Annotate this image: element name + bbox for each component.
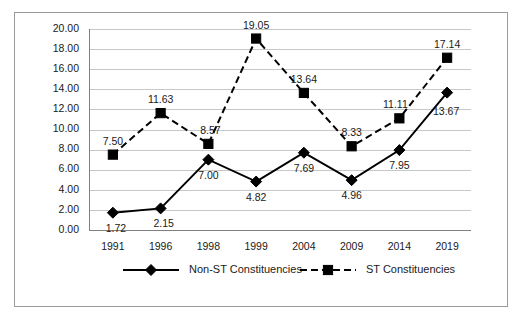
- y-tick-label: 14.00: [53, 82, 79, 94]
- x-tick-label: 2019: [435, 240, 459, 252]
- legend-marker-st: [323, 265, 332, 274]
- data-point-marker: [108, 150, 117, 159]
- y-tick-label: 20.00: [53, 22, 79, 34]
- x-tick-label: 1998: [197, 240, 221, 252]
- plot-area: 0.002.004.006.008.0010.0012.0014.0016.00…: [15, 13, 507, 306]
- x-tick-label: 2014: [388, 240, 412, 252]
- y-tick-label: 6.00: [59, 162, 80, 174]
- x-tick-label: 1999: [244, 240, 268, 252]
- y-tick-label: 2.00: [59, 203, 80, 215]
- data-point-marker: [252, 34, 261, 43]
- data-point-label: 8.33: [341, 126, 362, 138]
- data-point-label: 8.57: [200, 124, 221, 136]
- data-point-label: 11.63: [148, 93, 174, 105]
- data-point-marker: [299, 88, 308, 97]
- y-tick-label: 18.00: [53, 42, 79, 54]
- legend-label-non-st: Non-ST Constituencies: [189, 263, 302, 275]
- data-point-label: 4.96: [341, 189, 362, 201]
- data-point-label: 13.67: [433, 105, 459, 117]
- data-point-marker: [395, 114, 404, 123]
- x-tick-label: 1996: [149, 240, 173, 252]
- x-tick-label: 2009: [340, 240, 364, 252]
- legend-marker-non-st: [146, 265, 157, 276]
- y-tick-label: 0.00: [59, 223, 80, 235]
- legend-label-st: ST Constituencies: [366, 263, 456, 275]
- y-tick-label: 16.00: [53, 62, 79, 74]
- data-point-label: 13.64: [291, 73, 317, 85]
- data-point-marker: [346, 175, 357, 186]
- data-point-label: 19.05: [243, 19, 269, 31]
- data-point-marker: [156, 109, 165, 118]
- data-point-label: 7.00: [198, 169, 219, 181]
- data-point-label: 4.82: [246, 191, 267, 203]
- data-point-label: 7.50: [103, 135, 124, 147]
- data-point-marker: [204, 139, 213, 148]
- y-tick-label: 4.00: [59, 183, 80, 195]
- line-chart: 0.002.004.006.008.0010.0012.0014.0016.00…: [15, 13, 507, 306]
- data-point-label: 17.14: [434, 38, 460, 50]
- data-point-marker: [443, 53, 452, 62]
- y-tick-label: 10.00: [53, 122, 79, 134]
- data-point-marker: [298, 147, 309, 158]
- data-point-label: 11.11: [383, 98, 408, 110]
- chart-frame: 0.002.004.006.008.0010.0012.0014.0016.00…: [14, 12, 508, 307]
- data-point-label: 1.72: [106, 222, 127, 234]
- y-tick-label: 8.00: [59, 142, 80, 154]
- x-tick-label: 1991: [101, 240, 125, 252]
- data-point-marker: [107, 207, 118, 218]
- x-tick-label: 2004: [292, 240, 316, 252]
- data-point-label: 2.15: [153, 217, 174, 229]
- data-point-label: 7.95: [389, 159, 410, 171]
- y-tick-label: 12.00: [53, 102, 79, 114]
- data-point-marker: [251, 176, 262, 187]
- data-point-marker: [347, 142, 356, 151]
- data-point-label: 7.69: [294, 162, 315, 174]
